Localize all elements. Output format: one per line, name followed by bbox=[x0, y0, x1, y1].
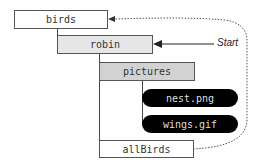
node-nest-png[interactable]: nest.png bbox=[142, 89, 238, 107]
node-birds[interactable]: birds bbox=[14, 10, 108, 29]
node-pictures[interactable]: pictures bbox=[99, 62, 195, 81]
node-allbirds-link[interactable]: allBirds bbox=[99, 140, 194, 158]
node-wings-gif[interactable]: wings.gif bbox=[142, 115, 238, 133]
start-label: Start bbox=[217, 37, 238, 48]
node-robin[interactable]: robin bbox=[57, 35, 153, 54]
